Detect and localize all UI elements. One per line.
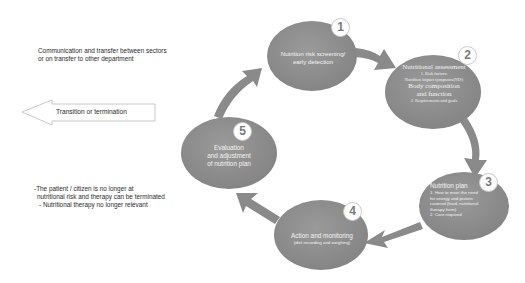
arrow-3-to-4 [364,222,423,248]
step-badge-3: 3 [479,173,498,192]
arrow-2-to-3 [460,118,487,178]
arrow-4-to-5 [236,193,280,224]
transition-label: Transition or termination [56,108,127,115]
node-2-line-3: 2. Requirements and goals [386,98,482,104]
node-1-text: Nutrition risk screening/ early detectio… [268,50,358,66]
step-badge-5: 5 [233,122,252,141]
step-badge-1: 1 [331,18,350,37]
node-2-title-3: and function [386,90,482,98]
criteria-line-1: -The patient / citizen is no longer at [34,185,165,193]
step-badge-2: 2 [458,46,477,65]
node-4-line-1: (diet recording and weighing) [276,240,368,246]
node-4-title: Action and monitoring [276,232,368,240]
criteria-line-2: nutritional risk and therapy can be term… [34,193,165,201]
communication-line-2: or on transfer to other department [38,55,167,63]
communication-note: Communication and transfer between secto… [38,47,167,63]
node-5-text: Evaluation and adjustment of nutrition p… [184,144,274,168]
communication-line-1: Communication and transfer between secto… [38,47,167,55]
node-4-text: Action and monitoring (diet recording an… [276,232,368,246]
node-3-line-5: 2. Care required [430,212,500,218]
node-1-title: Nutrition risk screening/ [268,50,358,58]
cycle-diagram [0,0,525,283]
node-2-title-2: Body composition [386,82,482,90]
node-5-title-2: and adjustment [184,152,274,160]
node-5-title-3: of nutrition plan [184,160,274,168]
step-badge-4: 4 [343,202,362,221]
node-2-text: Nutritional assessment 1. Risk factors: … [386,63,482,104]
termination-criteria: -The patient / citizen is no longer at n… [34,185,165,209]
criteria-line-3: - Nutritional therapy no longer relevant [34,201,165,209]
node-5-title: Evaluation [184,144,274,152]
arrow-5-to-1 [214,68,262,119]
node-1-subtitle: early detection [268,58,358,66]
